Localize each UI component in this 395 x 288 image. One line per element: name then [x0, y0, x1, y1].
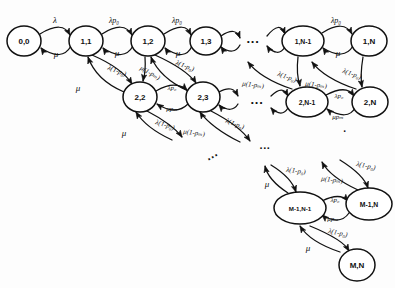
transition-rate-label: λp₀ — [334, 92, 345, 100]
transition-rate-label: λ(1-p₀) — [327, 227, 349, 239]
state-node-label: 1,2 — [142, 37, 154, 46]
state-node: 1,N — [351, 26, 387, 56]
transition-rate-label: μpₘ — [166, 105, 177, 113]
state-node: 2,N — [352, 87, 388, 117]
arrowhead — [156, 102, 164, 110]
arrowhead — [296, 79, 302, 86]
arrowhead — [262, 165, 269, 173]
transition-rate-label: μ — [121, 128, 127, 138]
state-node-label: M-1,N — [360, 201, 379, 209]
continuation-ellipsis: ··· — [260, 142, 271, 154]
transition-rate-label: μ(1-pₘ) — [139, 64, 162, 82]
state-node: 1,1 — [69, 26, 103, 56]
state-node: 1,3 — [190, 27, 222, 55]
continuation-ellipsis: ··· — [247, 34, 260, 49]
transition-rate-label: λp₀ — [171, 16, 182, 25]
state-node-label: 1,3 — [200, 37, 212, 46]
transition-rate-label: λ — [52, 15, 57, 25]
arrowhead — [269, 106, 277, 114]
transition-rate-label: μ — [175, 48, 181, 58]
nodes-layer: 0,01,11,21,31,N-11,N2,22,32,N-12,NM-1,N-… — [7, 26, 392, 281]
state-node-label: 1,1 — [80, 37, 92, 46]
arrowhead — [265, 45, 273, 53]
transition-rate-label: λp₀ — [108, 16, 119, 25]
state-node: M-1,N — [346, 188, 392, 220]
continuation-ellipsis: ··· — [251, 95, 264, 110]
state-node-label: 2,N — [364, 98, 377, 107]
state-node-label: M-1,N-1 — [289, 205, 312, 212]
transition-rate-label: λ(1-p₀) — [341, 67, 364, 82]
state-node-label: M,N — [350, 261, 365, 270]
transition-rate-label: λ(1-p₀) — [106, 63, 129, 78]
state-node: 0,0 — [7, 26, 41, 56]
continuation-ellipsis: · — [343, 126, 346, 137]
transition-rate-label: μ(1-pₘ) — [321, 175, 344, 186]
transition-rate-label: λp₀ — [330, 196, 341, 204]
transition-rate-label: μ(1-pₘ) — [183, 128, 206, 139]
state-node: 2,2 — [123, 82, 157, 112]
transition-rate-label: λp₀ — [167, 84, 178, 92]
transition-rate-label: μ — [53, 49, 59, 59]
markov-chain-diagram: 0,01,11,21,31,N-11,N2,22,32,N-12,NM-1,N-… — [0, 0, 395, 288]
transition-rate-label: μpₘ — [332, 113, 343, 121]
state-node-label: 2,N-1 — [299, 99, 316, 107]
transition-rate-label: λ(1-p₀) — [154, 118, 177, 132]
state-node: 2,3 — [186, 82, 220, 112]
transition-rate-label: μpₘ — [327, 215, 338, 223]
continuation-ellipsis: ··· — [204, 148, 221, 166]
arrowhead — [140, 74, 146, 81]
state-node-label: 2,2 — [134, 93, 146, 102]
transition-rate-label: μ — [75, 83, 81, 93]
transition-rate-label: μ — [305, 243, 311, 253]
state-node: M-1,N-1 — [274, 192, 326, 224]
transition-rate-label: μ(1-pₘ) — [242, 80, 265, 91]
transition-rate-label: μ — [335, 48, 341, 58]
transition-rate-label: λ(1-p₀) — [224, 116, 247, 131]
state-node: M,N — [339, 249, 375, 281]
state-node-label: 1,N — [363, 37, 376, 46]
state-node-label: 0,0 — [18, 37, 30, 46]
transition-arc — [267, 27, 285, 36]
transition-rate-label: λp₀ — [330, 16, 341, 25]
state-node: 1,N-1 — [282, 26, 324, 56]
transition-rate-label: λ(1-p₀) — [285, 166, 307, 177]
transition-rate-label: λ(1-p₀) — [276, 70, 299, 85]
state-node-label: 1,N-1 — [295, 38, 312, 46]
transition-rate-label: μ — [114, 48, 120, 58]
transition-rate-label: μ — [264, 179, 270, 189]
state-node-label: 2,3 — [197, 93, 209, 102]
state-node: 1,2 — [131, 26, 165, 56]
transition-rate-label: λ(1-p₀) — [355, 160, 377, 172]
arrowhead — [86, 56, 93, 64]
diagram-canvas: 0,01,11,21,31,N-11,N2,22,32,N-12,NM-1,N-… — [0, 0, 395, 288]
state-node: 2,N-1 — [286, 87, 328, 117]
